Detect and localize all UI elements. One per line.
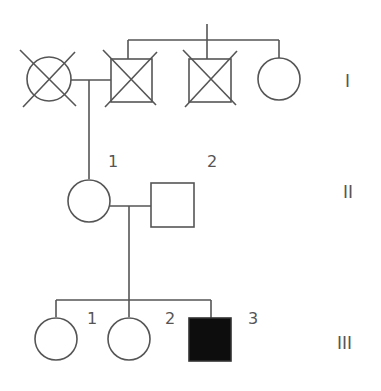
- pedigree-chart: I 1 2 II 1 2 3 III: [0, 0, 381, 391]
- generation-label-3: III: [337, 333, 352, 353]
- individual-gen3-3-male-affected: [189, 318, 231, 361]
- individual-gen1-male-deceased: [103, 50, 157, 107]
- generation-label-2: II: [343, 182, 353, 202]
- generation-2: 1 2 II: [68, 152, 353, 317]
- individual-number: 2: [207, 152, 217, 171]
- individual-number: 2: [165, 309, 175, 328]
- individual-number: 3: [248, 309, 258, 328]
- individual-gen2-1-female: [68, 180, 110, 222]
- individual-gen2-2-male: [151, 183, 194, 227]
- individual-gen3-2-female: [108, 318, 150, 360]
- generation-label-1: I: [345, 71, 350, 91]
- individual-number: 1: [108, 152, 118, 171]
- individual-gen1-female: [258, 58, 300, 100]
- individual-number: 1: [87, 309, 97, 328]
- individual-gen1-female-deceased: [20, 50, 76, 107]
- individual-gen3-1-female: [35, 318, 77, 360]
- generation-3: 1 2 3 III: [35, 300, 352, 361]
- individual-gen1-male-deceased: [183, 50, 237, 107]
- generation-1: I: [20, 24, 350, 179]
